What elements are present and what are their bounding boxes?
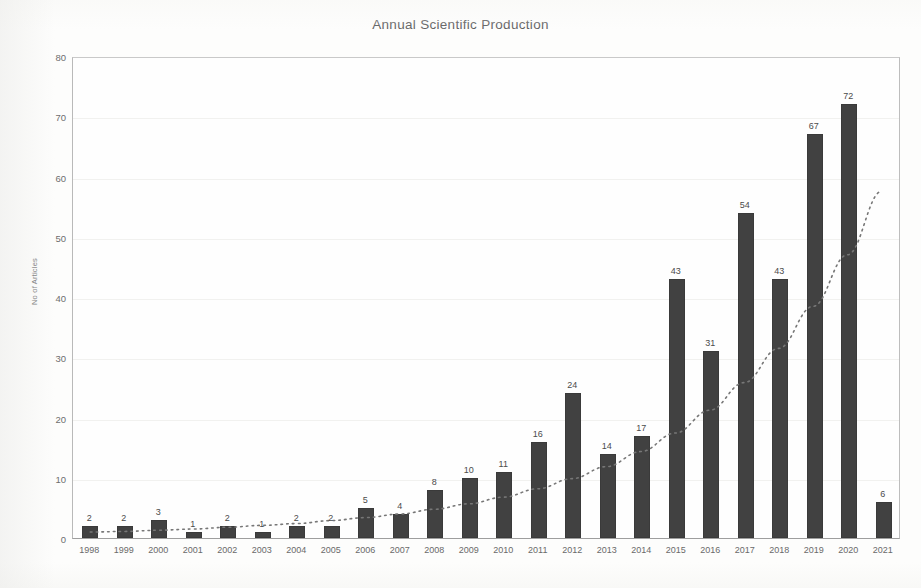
- bar: [600, 454, 616, 538]
- bar: [289, 526, 305, 538]
- bar-value-label: 6: [863, 489, 903, 499]
- bar-value-label: 67: [794, 121, 834, 131]
- y-tick-label: 10: [32, 473, 66, 484]
- y-tick-label: 20: [32, 413, 66, 424]
- y-tick-label: 40: [32, 293, 66, 304]
- chart-title: Annual Scientific Production: [0, 17, 921, 32]
- bar-value-label: 31: [690, 338, 730, 348]
- bar-value-label: 54: [725, 200, 765, 210]
- bar: [358, 508, 374, 538]
- bar: [186, 532, 202, 538]
- y-tick-label: 60: [32, 172, 66, 183]
- bar: [807, 134, 823, 538]
- bar: [565, 393, 581, 538]
- bar: [531, 442, 547, 538]
- bar: [703, 351, 719, 538]
- bar-value-label: 16: [518, 429, 558, 439]
- bar-value-label: 3: [138, 507, 178, 517]
- y-tick-label: 80: [32, 52, 66, 63]
- bar: [255, 532, 271, 538]
- bar-value-label: 72: [828, 91, 868, 101]
- bar: [427, 490, 443, 538]
- bar: [772, 279, 788, 538]
- bar: [393, 514, 409, 538]
- bar-value-label: 24: [552, 380, 592, 390]
- bar: [117, 526, 133, 538]
- bar: [634, 436, 650, 538]
- bar-value-label: 4: [380, 501, 420, 511]
- bar: [462, 478, 478, 538]
- bar-value-label: 14: [587, 441, 627, 451]
- bar-value-label: 11: [483, 459, 523, 469]
- bar-value-label: 43: [759, 266, 799, 276]
- gridline-50: [73, 239, 899, 240]
- y-tick-label: 70: [32, 112, 66, 123]
- chart-page: Annual Scientific Production No of Artic…: [0, 0, 921, 588]
- y-tick-label: 50: [32, 232, 66, 243]
- y-tick-label: 0: [32, 534, 66, 545]
- bar: [738, 213, 754, 538]
- trendline-path: [90, 191, 882, 532]
- x-tick-label: 2021: [861, 545, 905, 555]
- bar: [496, 472, 512, 538]
- bar: [82, 526, 98, 538]
- bar: [669, 279, 685, 538]
- gridline-60: [73, 179, 899, 180]
- bar: [151, 520, 167, 538]
- bar: [841, 104, 857, 538]
- bar-value-label: 2: [311, 513, 351, 523]
- bar-value-label: 17: [621, 423, 661, 433]
- bar: [324, 526, 340, 538]
- gridline-70: [73, 118, 899, 119]
- bar-value-label: 8: [414, 477, 454, 487]
- y-tick-label: 30: [32, 353, 66, 364]
- bar-value-label: 43: [656, 266, 696, 276]
- bar: [220, 526, 236, 538]
- bar: [876, 502, 892, 538]
